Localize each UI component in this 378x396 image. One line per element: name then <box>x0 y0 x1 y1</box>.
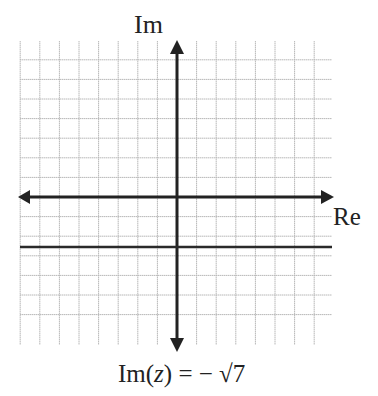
equation-variable: z <box>154 360 164 387</box>
imaginary-axis-down-arrow-icon <box>170 338 184 352</box>
equation-suffix: ) = − √7 <box>164 360 246 387</box>
equation-prefix: Im( <box>118 360 154 387</box>
complex-plane <box>0 0 378 396</box>
imaginary-axis-up-arrow-icon <box>170 40 184 54</box>
imaginary-axis-label: Im <box>134 10 163 40</box>
real-axis-right-arrow-icon <box>321 190 334 204</box>
real-axis-label: Re <box>333 203 361 231</box>
equation-caption: Im(z) = − √7 <box>118 360 245 388</box>
